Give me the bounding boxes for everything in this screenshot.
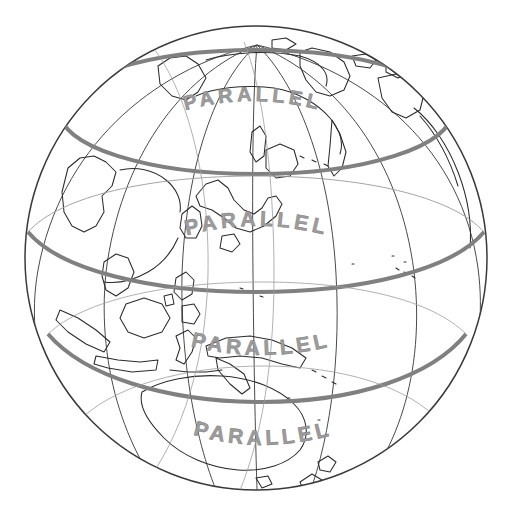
globe-illustration: PARALLEL PARALLEL PARALLEL PARALLEL	[0, 0, 510, 520]
globe-figure: PARALLEL PARALLEL PARALLEL PARALLEL	[0, 0, 510, 520]
